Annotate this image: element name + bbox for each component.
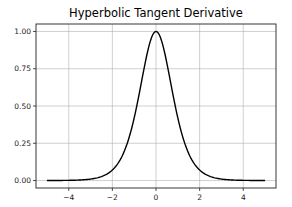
y-tick-label: 0.25 <box>14 139 31 148</box>
y-axis: 0.000.250.500.751.00 <box>14 27 36 185</box>
x-tick-label: 2 <box>197 193 202 202</box>
y-tick-label: 0.50 <box>14 102 31 111</box>
grid-lines <box>36 24 276 188</box>
chart-title: Hyperbolic Tangent Derivative <box>69 6 243 20</box>
x-tick-label: 0 <box>154 193 159 202</box>
x-axis: −4−2024 <box>63 188 246 202</box>
y-tick-label: 1.00 <box>14 27 31 36</box>
x-tick-label: −4 <box>63 193 74 202</box>
chart: Hyperbolic Tangent Derivative 0.000.250.… <box>0 0 292 207</box>
y-tick-label: 0.00 <box>14 176 31 185</box>
x-tick-label: −2 <box>107 193 118 202</box>
y-tick-label: 0.75 <box>14 64 31 73</box>
x-tick-label: 4 <box>241 193 246 202</box>
